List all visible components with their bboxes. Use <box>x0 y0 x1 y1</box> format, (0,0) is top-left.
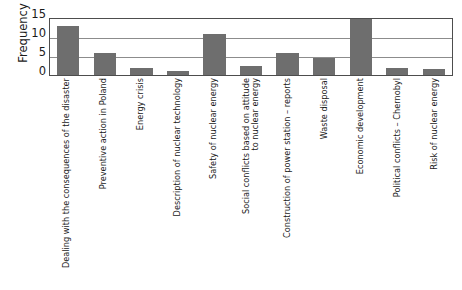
y-tick-5: 5 <box>39 47 46 57</box>
x-label-slot: Description of nuclear technology <box>159 78 196 286</box>
bar[interactable] <box>130 68 152 75</box>
x-axis-label: Social conflicts based on attitudeto nuc… <box>242 78 261 214</box>
x-axis-label: Preventive action in Poland <box>99 78 108 189</box>
x-label-slot: Risk of nuclear energy <box>416 78 453 286</box>
bar[interactable] <box>313 58 335 75</box>
y-tick-0: 0 <box>39 66 46 76</box>
x-axis-label: Waste disposal <box>320 78 329 139</box>
plot-area <box>49 18 453 76</box>
x-label-slot: Safety of nuclear energy <box>196 78 233 286</box>
y-tick-15: 15 <box>31 9 46 19</box>
bar[interactable] <box>423 69 445 75</box>
x-label-slot: Political conflicts – Chernobyl <box>380 78 417 286</box>
x-label-slot: Construction of power station – reports <box>269 78 306 286</box>
x-axis-label: Dealing with the consequences of the dis… <box>63 78 72 268</box>
x-axis-category-labels: Dealing with the consequences of the dis… <box>49 78 453 286</box>
x-label-slot: Social conflicts based on attitudeto nuc… <box>233 78 270 286</box>
x-axis-label: Construction of power station – reports <box>283 78 292 238</box>
y-tick-10: 10 <box>31 28 46 38</box>
bar[interactable] <box>203 34 225 75</box>
x-label-slot: Waste disposal <box>306 78 343 286</box>
bar-slot <box>87 19 124 75</box>
bar[interactable] <box>240 66 262 75</box>
bar-slot <box>306 19 343 75</box>
bar-slot <box>50 19 87 75</box>
bar[interactable] <box>386 68 408 75</box>
bar[interactable] <box>167 71 189 75</box>
bar-slot <box>415 19 452 75</box>
bar-slot <box>269 19 306 75</box>
bar-slot <box>233 19 270 75</box>
x-axis-label: Energy crisis <box>136 78 145 130</box>
bar-slot <box>379 19 416 75</box>
x-axis-label: Political conflicts – Chernobyl <box>393 78 402 197</box>
bar-slot <box>342 19 379 75</box>
bar[interactable] <box>57 26 79 75</box>
bar[interactable] <box>94 53 116 75</box>
bar-slot <box>160 19 197 75</box>
bar[interactable] <box>276 53 298 75</box>
x-axis-label: Economic development <box>357 78 366 174</box>
y-axis-tick-labels: 15 10 5 0 <box>24 14 46 72</box>
bar-slot <box>123 19 160 75</box>
x-axis-label: Safety of nuclear energy <box>210 78 219 179</box>
bar-chart-figure: Frequency 15 10 5 0 Dealing with the con… <box>0 0 462 290</box>
x-label-slot: Energy crisis <box>122 78 159 286</box>
x-label-slot: Preventive action in Poland <box>86 78 123 286</box>
bar-slot <box>196 19 233 75</box>
x-axis-label: Description of nuclear technology <box>173 78 182 216</box>
x-label-slot: Dealing with the consequences of the dis… <box>49 78 86 286</box>
x-label-slot: Economic development <box>343 78 380 286</box>
bar[interactable] <box>350 19 372 75</box>
x-axis-label: Risk of nuclear energy <box>430 78 439 170</box>
bar-series <box>50 19 452 75</box>
